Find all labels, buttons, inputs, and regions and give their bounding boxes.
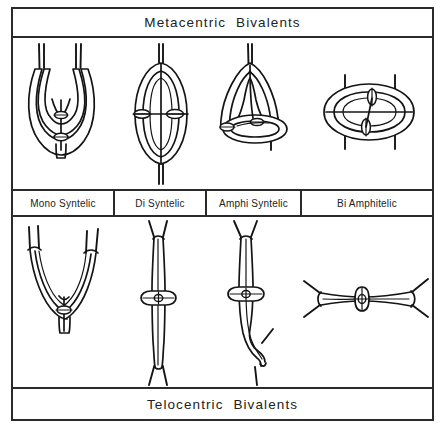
label-text-amphi-syntelic: Amphi Syntelic <box>219 198 288 209</box>
figure-telocentric-bi-amphitelic <box>302 217 432 391</box>
bottom-title-text: Telocentric Bivalents <box>147 397 298 412</box>
centromere <box>354 287 370 311</box>
centromere-mid <box>250 118 264 125</box>
spindle-fibers-bottom <box>159 162 163 184</box>
arm-tip-left <box>318 292 321 306</box>
spindle-fibers-top <box>234 221 257 237</box>
label-text-mono-syntelic: Mono Syntelic <box>30 198 95 209</box>
figure-metacentric-amphi-syntelic <box>207 38 302 189</box>
centromere-upper <box>54 111 68 118</box>
centromere <box>228 287 264 301</box>
bottom-title-band: Telocentric Bivalents <box>13 387 432 419</box>
metacentric-figure-row <box>13 38 432 189</box>
telocentric-figure-row <box>13 217 432 391</box>
bivalent-orientation-figure: Metacentric Bivalents <box>0 0 444 429</box>
centromere-lower <box>53 133 69 141</box>
label-text-bi-amphitelic: Bi Amphitelic <box>337 198 397 209</box>
centromere <box>141 291 176 305</box>
orientation-label-row: Mono Syntelic Di Syntelic Amphi Syntelic… <box>13 189 432 217</box>
chromatid-middle-left <box>35 251 66 311</box>
figure-frame: Metacentric Bivalents <box>11 7 434 421</box>
figure-metacentric-di-syntelic <box>115 38 207 189</box>
centromere-upper <box>368 88 377 106</box>
label-cell-di-syntelic: Di Syntelic <box>115 191 207 215</box>
spindle-fibers-right <box>76 44 81 68</box>
figure-metacentric-mono-syntelic <box>13 38 115 189</box>
label-cell-amphi-syntelic: Amphi Syntelic <box>207 191 302 215</box>
top-title-text: Metacentric Bivalents <box>144 15 300 30</box>
chromatid-inner-right <box>64 254 86 305</box>
label-cell-bi-amphitelic: Bi Amphitelic <box>302 191 432 215</box>
spindle-fibers-top <box>248 44 252 64</box>
label-cell-mono-syntelic: Mono Syntelic <box>13 191 115 215</box>
centromere <box>56 306 72 314</box>
chromatid-left-edge <box>239 238 261 366</box>
spindle-fibers-top <box>149 221 167 237</box>
figure-metacentric-bi-amphitelic <box>302 38 432 189</box>
centromere-left <box>220 123 235 131</box>
figure-telocentric-amphi-syntelic <box>207 217 302 391</box>
top-title-band: Metacentric Bivalents <box>13 9 432 38</box>
spindle-fibers-left <box>39 44 44 68</box>
spindle-fibers-lower-right <box>262 329 273 343</box>
label-text-di-syntelic: Di Syntelic <box>135 198 184 209</box>
figure-telocentric-di-syntelic <box>115 217 207 391</box>
spindle-fibers-bottom <box>255 367 257 385</box>
spindle-fibers-left <box>29 226 39 249</box>
figure-telocentric-mono-syntelic <box>13 217 115 391</box>
spindle-fibers-top <box>159 44 163 64</box>
